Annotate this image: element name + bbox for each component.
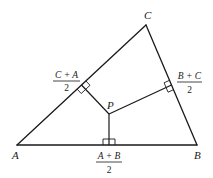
triangle [17,25,197,145]
point-label-p: P [106,99,114,111]
fraction-denominator-bc: 2 [187,85,192,95]
fraction-numerator-ab: A + B [97,151,121,161]
vertex-label-a: A [11,149,19,161]
fraction-numerator-bc: B + C [178,71,202,81]
bisector-bc [109,85,172,114]
right-angle-icon-ca-upper [86,81,90,90]
right-angle-icon-ab-right [109,139,115,145]
right-angle-icon-ab-left [103,139,109,145]
perpendicular-bisectors [82,85,172,145]
midpoint-label-ab: A + B 2 [96,151,122,175]
right-angle-markers [77,80,173,145]
vertex-label-c: C [144,9,152,21]
vertex-label-b: B [194,149,201,161]
midpoint-label-bc: B + C 2 [177,71,202,95]
right-angle-icon-ca-lower [77,89,86,93]
fraction-denominator-ab: 2 [107,165,112,175]
triangle-diagram: A B C P C + A 2 B + C 2 A + B 2 [0,0,213,178]
fraction-numerator-ca: C + A [55,70,78,80]
fraction-denominator-ca: 2 [64,83,69,93]
